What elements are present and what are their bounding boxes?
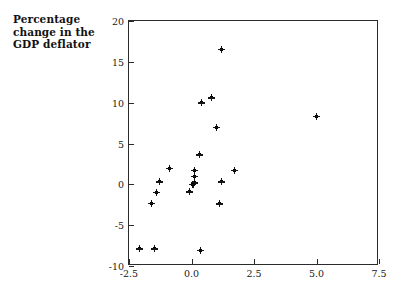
data-point-core <box>191 183 194 186</box>
y-tick-mark <box>129 266 134 267</box>
x-tick-label: 5.0 <box>309 268 324 279</box>
plot-area: -10-505101520-2.50.02.55.07.5 <box>129 21 377 264</box>
plot-frame: -10-505101520-2.50.02.55.07.5 <box>128 20 378 265</box>
data-point <box>189 181 196 188</box>
data-point <box>197 247 204 254</box>
data-point <box>151 245 158 252</box>
y-tick-label: 10 <box>112 97 124 108</box>
data-point <box>213 124 220 131</box>
x-tick-mark <box>254 259 255 264</box>
data-point-core <box>215 126 218 129</box>
data-point-core <box>218 202 221 205</box>
data-point <box>196 151 203 158</box>
data-point-core <box>193 175 196 178</box>
data-point-core <box>315 115 318 118</box>
data-point <box>198 99 205 106</box>
data-point-core <box>233 169 236 172</box>
data-point-core <box>210 96 213 99</box>
data-point <box>148 200 155 207</box>
data-point <box>208 94 215 101</box>
y-tick-label: 5 <box>118 138 124 149</box>
y-tick-mark <box>129 184 134 185</box>
x-tick-label: -2.5 <box>120 268 138 279</box>
y-tick-mark <box>129 62 134 63</box>
data-point-core <box>153 247 156 250</box>
data-point <box>136 245 143 252</box>
data-point <box>231 167 238 174</box>
data-point-core <box>220 180 223 183</box>
data-point <box>153 189 160 196</box>
data-point-core <box>168 167 171 170</box>
x-tick-label: 0.0 <box>184 268 199 279</box>
data-point-core <box>150 202 153 205</box>
data-point <box>218 46 225 53</box>
y-tick-label: 15 <box>112 56 124 67</box>
data-point <box>218 178 225 185</box>
data-point-core <box>200 101 203 104</box>
data-point-core <box>138 247 141 250</box>
data-point <box>156 178 163 185</box>
x-tick-label: 2.5 <box>246 268 261 279</box>
y-tick-label: 0 <box>118 179 124 190</box>
data-point-core <box>193 169 196 172</box>
data-point-core <box>158 180 161 183</box>
y-tick-mark <box>129 225 134 226</box>
data-point <box>186 188 193 195</box>
data-point-core <box>220 48 223 51</box>
x-tick-mark <box>192 259 193 264</box>
scatter-plot-screenshot: Percentage change in the GDP deflator -1… <box>0 0 408 299</box>
y-tick-mark <box>129 144 134 145</box>
data-point <box>166 165 173 172</box>
data-point-core <box>198 153 201 156</box>
y-tick-mark <box>129 103 134 104</box>
y-tick-label: 20 <box>112 16 124 27</box>
y-axis-caption: Percentage change in the GDP deflator <box>13 13 108 51</box>
data-point <box>216 200 223 207</box>
y-tick-mark <box>129 21 134 22</box>
x-tick-label: 7.5 <box>371 268 386 279</box>
x-tick-mark <box>379 259 380 264</box>
data-point-core <box>188 190 191 193</box>
y-tick-label: -5 <box>115 220 124 231</box>
data-point <box>313 113 320 120</box>
x-tick-mark <box>129 259 130 264</box>
x-tick-mark <box>317 259 318 264</box>
data-point-core <box>199 249 202 252</box>
data-point-core <box>155 191 158 194</box>
